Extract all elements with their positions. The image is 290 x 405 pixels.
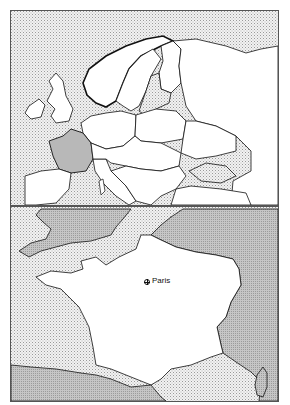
france-detail-map[interactable]: Paris xyxy=(11,207,278,401)
europe-overview-map[interactable] xyxy=(11,11,278,205)
country-poland-baltics[interactable] xyxy=(135,109,186,143)
map-frame: Paris xyxy=(10,10,279,402)
country-finland[interactable] xyxy=(159,41,181,93)
city-label-paris: Paris xyxy=(152,276,170,285)
city-marker-icon[interactable] xyxy=(144,279,150,285)
